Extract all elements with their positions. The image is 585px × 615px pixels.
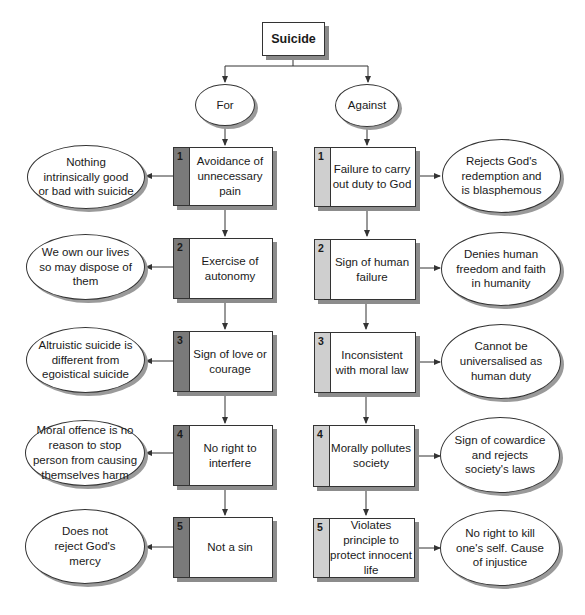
against-consequence-text: Cannot be universalised as human duty (458, 339, 544, 384)
for-argument-text: Exercise of autonomy (190, 239, 270, 298)
against-branch-node: Against (335, 84, 399, 127)
for-argument-text: No right to interfere (190, 426, 270, 485)
for-consequence-text: Moral offence is no reason to stop perso… (32, 423, 138, 483)
for-consequence-text: We own our lives so may dispose of them (37, 245, 134, 290)
for-consequence-ellipse: Altruistic suicide is different from ego… (26, 327, 145, 393)
against-argument-box: 3 Inconsistent with moral law (314, 332, 416, 393)
for-number: 3 (177, 334, 183, 348)
against-consequence-ellipse: Denies human freedom and faith in humani… (441, 232, 561, 306)
against-number: 2 (318, 242, 324, 256)
against-argument-text: Sign of human failure (331, 240, 413, 299)
for-consequence-ellipse: Nothing intrinsically good or bad with s… (27, 145, 145, 209)
for-argument-box: 1 Avoidance of unnecessary pain (173, 147, 273, 206)
against-consequence-ellipse: Sign of cowardice and rejects society's … (440, 417, 560, 493)
against-consequence-text: Denies human freedom and faith in humani… (452, 247, 550, 292)
against-consequence-ellipse: Cannot be universalised as human duty (441, 324, 561, 399)
for-argument-text: Not a sin (190, 518, 270, 577)
against-argument-text: Failure to carry out duty to God (331, 148, 413, 206)
against-consequence-text: Rejects God's redemption and is blasphem… (457, 154, 546, 199)
against-consequence-ellipse: Rejects God's redemption and is blasphem… (442, 139, 561, 213)
for-argument-text: Sign of love or courage (190, 332, 270, 391)
for-consequence-text: Altruistic suicide is different from ego… (37, 338, 134, 383)
against-argument-text: Morally pollutes society (330, 426, 412, 486)
for-argument-box: 3 Sign of love or courage (173, 331, 273, 392)
against-argument-box: 4 Morally pollutes society (313, 425, 415, 487)
against-number: 1 (318, 150, 324, 164)
for-branch-label: For (216, 98, 233, 113)
for-number: 5 (177, 520, 183, 534)
for-number: 2 (177, 241, 183, 255)
for-consequence-ellipse: We own our lives so may dispose of them (26, 234, 145, 300)
against-argument-text: Violates principle to protect innocent l… (330, 519, 412, 577)
against-argument-box: 1 Failure to carry out duty to God (314, 147, 416, 207)
against-consequence-ellipse: No right to kill one's self. Cause of in… (440, 510, 560, 586)
against-consequence-text: Sign of cowardice and rejects society's … (453, 433, 547, 478)
title-box: Suicide (262, 22, 325, 56)
against-number: 3 (318, 335, 324, 349)
against-branch-label: Against (348, 98, 386, 113)
for-argument-box: 2 Exercise of autonomy (173, 238, 273, 299)
title-text: Suicide (271, 32, 315, 46)
for-number: 1 (177, 150, 183, 164)
against-argument-box: 2 Sign of human failure (314, 239, 416, 300)
for-argument-box: 5 Not a sin (173, 517, 273, 578)
for-number: 4 (177, 428, 183, 442)
against-argument-text: Inconsistent with moral law (331, 333, 413, 392)
for-consequence-text: Nothing intrinsically good or bad with s… (38, 155, 134, 200)
suicide-argument-diagram: Suicide For Against 1 Avoidance of unnec… (0, 0, 585, 615)
for-consequence-text: Does not reject God's mercy (48, 524, 122, 569)
for-branch-node: For (195, 84, 255, 126)
against-number: 5 (317, 521, 323, 535)
for-argument-text: Avoidance of unnecessary pain (190, 148, 270, 205)
for-consequence-ellipse: Does not reject God's mercy (25, 509, 145, 584)
for-consequence-ellipse: Moral offence is no reason to stop perso… (25, 420, 145, 486)
for-argument-box: 4 No right to interfere (173, 425, 273, 486)
against-consequence-text: No right to kill one's self. Cause of in… (451, 526, 549, 571)
against-argument-box: 5 Violates principle to protect innocent… (313, 518, 415, 578)
against-number: 4 (317, 428, 323, 442)
